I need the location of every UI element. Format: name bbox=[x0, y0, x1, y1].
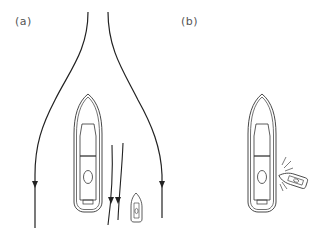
large-vessel-b bbox=[248, 94, 276, 212]
arrow-left-icon bbox=[32, 181, 38, 188]
inner-flow-line-2 bbox=[118, 143, 123, 220]
flow-line-right bbox=[108, 12, 162, 218]
inner-flow-line-1 bbox=[108, 145, 112, 225]
small-boat-a bbox=[131, 193, 142, 222]
small-boat-collision bbox=[277, 170, 308, 189]
large-vessel-a bbox=[74, 94, 102, 212]
panel-a bbox=[32, 12, 165, 228]
arrow-inner-2-icon bbox=[115, 197, 121, 204]
panel-b bbox=[248, 94, 308, 212]
arrow-inner-1-icon bbox=[108, 197, 114, 204]
arrow-right-icon bbox=[159, 181, 165, 188]
diagram-canvas bbox=[0, 0, 325, 236]
